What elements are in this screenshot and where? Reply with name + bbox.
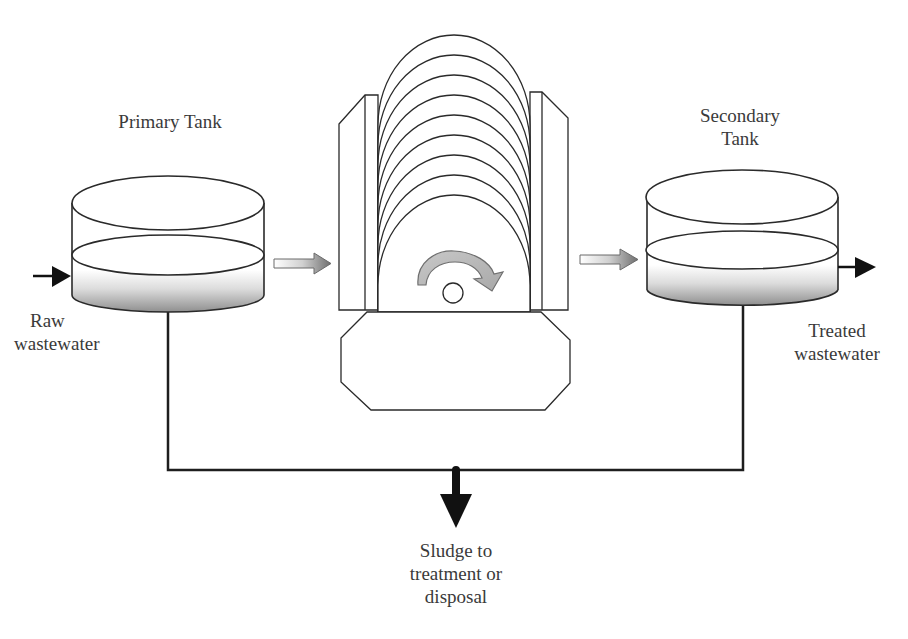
sludge-label-line3: disposal [386, 585, 526, 608]
flow-arrow-primary-to-rbc [274, 253, 331, 274]
treated-wastewater-line2: wastewater [778, 342, 896, 365]
secondary-tank-label-line1: Secondary [670, 104, 810, 127]
treated-wastewater-label: Treated wastewater [778, 319, 896, 365]
flow-arrow-rbc-to-secondary [580, 249, 638, 270]
secondary-tank-label: Secondary Tank [670, 104, 810, 150]
treated-wastewater-line1: Treated [778, 319, 896, 342]
sludge-label-line1: Sludge to [386, 539, 526, 562]
primary-tank [72, 176, 264, 312]
primary-tank-label-text: Primary Tank [100, 110, 240, 133]
rbc-discs [378, 35, 530, 312]
rbc-shaft [443, 283, 463, 303]
sludge-disposal-label: Sludge to treatment or disposal [386, 539, 526, 608]
secondary-tank [646, 170, 838, 305]
rbc-unit [339, 35, 570, 410]
raw-inlet-arrow [33, 266, 71, 287]
primary-tank-label: Primary Tank [100, 110, 240, 133]
secondary-tank-label-line2: Tank [670, 127, 810, 150]
sludge-label-line2: treatment or [386, 562, 526, 585]
sludge-down-arrow [440, 466, 472, 528]
treated-outlet-arrow [838, 257, 876, 278]
raw-wastewater-label: Raw wastewater [14, 309, 124, 355]
raw-wastewater-line1: Raw [14, 309, 124, 332]
raw-wastewater-line2: wastewater [14, 332, 124, 355]
